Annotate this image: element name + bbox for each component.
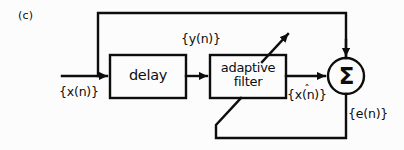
signal-label-x: {x(n)} [59, 86, 99, 99]
adaptive-filter-label-line1: adaptive [210, 61, 286, 75]
signal-label-y: {y(n)} [181, 33, 221, 46]
delay-block-label: delay [110, 68, 186, 83]
panel-label: (c) [18, 10, 33, 21]
signal-label-e: {e(n)} [348, 108, 388, 121]
figure-canvas: (c) delay adaptive filter Σ {y(n)} {x(n)… [0, 0, 404, 150]
adaptive-filter-label-line2: filter [210, 75, 286, 89]
x-hat-group: {x(n)} ˆ [287, 89, 327, 102]
adaptive-filter-block-label: adaptive filter [210, 61, 286, 88]
hat-accent: ˆ [304, 84, 309, 95]
signal-label-x-hat: {x(n)} ˆ [287, 89, 327, 102]
summation-sigma-symbol: Σ [328, 60, 365, 92]
